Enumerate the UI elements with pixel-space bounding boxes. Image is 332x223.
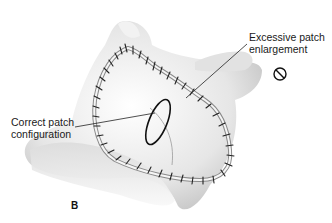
no-symbol-icon	[273, 67, 287, 81]
label-excessive-line2: enlargement	[249, 43, 325, 55]
label-correct-line1: Correct patch	[11, 116, 74, 128]
surgical-illustration: Excessive patch enlargement Correct patc…	[0, 0, 332, 223]
label-correct-patch-configuration: Correct patch configuration	[11, 116, 74, 140]
panel-letter: B	[71, 200, 78, 211]
label-excessive-patch-enlargement: Excessive patch enlargement	[249, 31, 325, 55]
label-excessive-line1: Excessive patch	[249, 31, 325, 43]
label-correct-line2: configuration	[11, 128, 74, 140]
